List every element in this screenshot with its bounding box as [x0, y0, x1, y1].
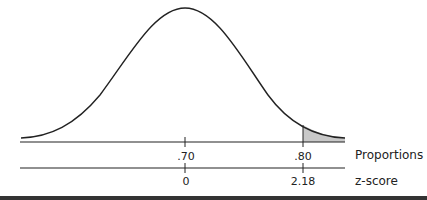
normal-curve-diagram: [0, 0, 427, 200]
bell-curve: [21, 8, 345, 138]
tick-label-z218: 2.18: [291, 175, 316, 188]
proportions-label: Proportions: [355, 148, 423, 162]
z-score-label: z-score: [355, 174, 398, 188]
tick-label-z0: 0: [183, 175, 190, 188]
tick-label-70: .70: [177, 150, 195, 163]
tick-label-80: .80: [294, 150, 312, 163]
bottom-border: [0, 196, 427, 200]
shaded-tail: [303, 125, 345, 142]
